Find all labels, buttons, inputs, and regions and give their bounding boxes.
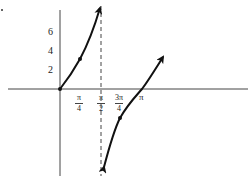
num: π — [77, 94, 81, 102]
den: 2 — [99, 105, 103, 113]
num: π — [99, 94, 103, 102]
x-tick-3pi-4: 3π4 — [115, 94, 123, 113]
num: 3π — [115, 94, 123, 102]
point-3pi4 — [118, 116, 122, 120]
curve-branch-2 — [104, 57, 163, 167]
x-tick-pi-4: π4 — [75, 94, 83, 113]
x-tick-pi: π — [139, 93, 144, 102]
den: 4 — [117, 105, 121, 113]
den: 4 — [77, 105, 81, 113]
point-pi4 — [78, 57, 82, 61]
tangent-plot — [0, 0, 250, 176]
x-tick-pi-2: π2 — [97, 94, 105, 113]
curve-branch-1 — [60, 8, 100, 89]
point-origin — [58, 87, 62, 91]
y-tick-2: 2 — [48, 65, 53, 75]
y-tick-6: 6 — [48, 27, 53, 37]
y-tick-4: 4 — [48, 46, 53, 56]
stray-mark — [1, 9, 3, 11]
